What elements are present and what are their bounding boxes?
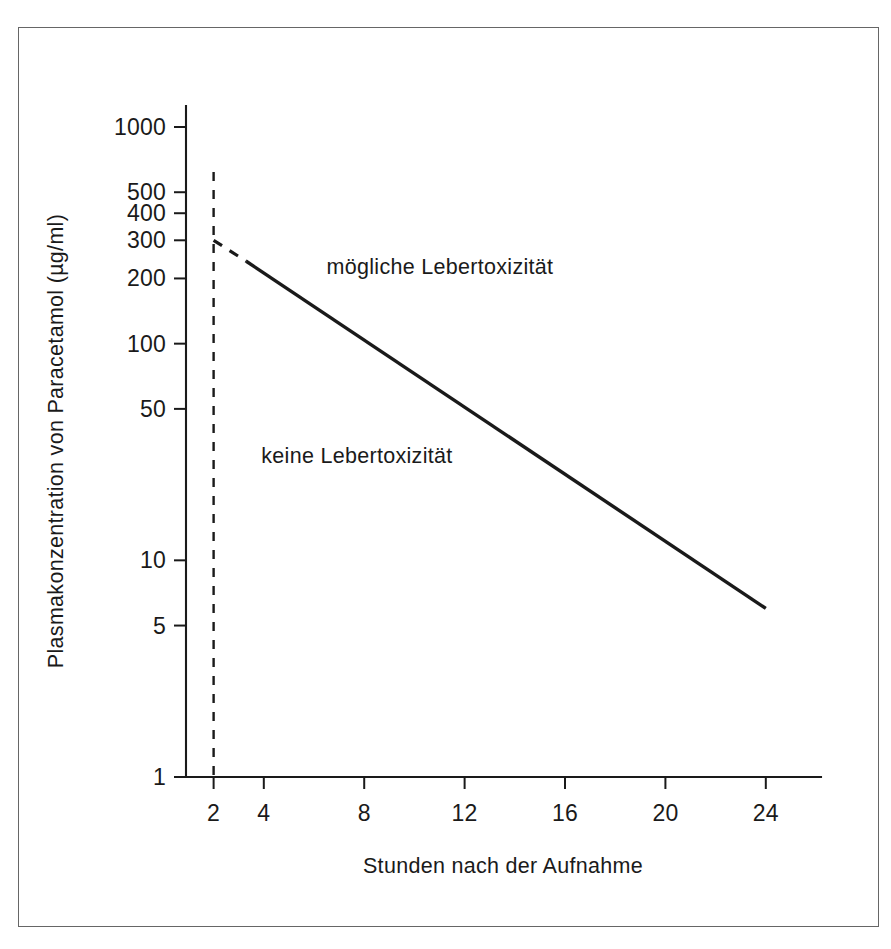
y-tick-label: 10 bbox=[140, 547, 166, 573]
x-tick-label: 4 bbox=[257, 800, 270, 826]
y-tick-label: 200 bbox=[127, 265, 166, 291]
x-tick-label: 24 bbox=[753, 800, 779, 826]
y-tick-label: 300 bbox=[127, 227, 166, 253]
x-tick-label: 16 bbox=[552, 800, 578, 826]
x-tick-label: 12 bbox=[452, 800, 478, 826]
x-tick-label: 20 bbox=[652, 800, 678, 826]
region-annotation-label: mögliche Lebertoxizität bbox=[327, 255, 554, 279]
x-axis-title: Stunden nach der Aufnahme bbox=[363, 854, 643, 878]
treatment-line-solid bbox=[246, 261, 766, 608]
figure-frame: 1000500400300200100501051 24812162024 mö… bbox=[18, 27, 879, 927]
region-annotation-label: keine Lebertoxizität bbox=[261, 444, 452, 468]
nomogram-chart: 1000500400300200100501051 24812162024 mö… bbox=[19, 28, 880, 928]
x-axis-ticks: 24812162024 bbox=[207, 777, 779, 826]
y-axis-title: Plasmakonzentration von Paracetamol (µg/… bbox=[44, 214, 68, 668]
y-tick-label: 100 bbox=[127, 331, 166, 357]
y-tick-label: 50 bbox=[140, 396, 166, 422]
treatment-line-dashed bbox=[214, 240, 247, 261]
y-tick-label: 1000 bbox=[114, 114, 166, 140]
x-tick-label: 8 bbox=[358, 800, 371, 826]
y-tick-label: 1 bbox=[153, 764, 166, 790]
x-tick-label: 2 bbox=[207, 800, 220, 826]
y-axis-ticks: 1000500400300200100501051 bbox=[114, 114, 186, 790]
y-tick-label: 5 bbox=[153, 613, 166, 639]
y-tick-label: 400 bbox=[127, 200, 166, 226]
